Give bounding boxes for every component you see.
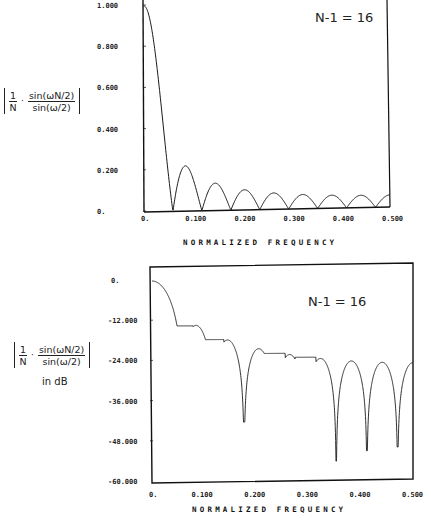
y-tick-label: 0.800 bbox=[97, 43, 118, 51]
y-tick-label: -36.000 bbox=[108, 398, 138, 406]
x-tick-label: 0.200 bbox=[244, 491, 265, 499]
x-tick-label: 0.300 bbox=[297, 491, 318, 499]
linear-magnitude-chart: 1 N · sin(ωN/2) sin(ω/2) 1.0000.8000.600… bbox=[0, 0, 431, 250]
x-tick-label: 0.400 bbox=[349, 491, 370, 499]
top-plot-svg: 1.0000.8000.6000.4000.2000. 0.0.1000.200… bbox=[0, 0, 431, 250]
x-axis-title: NORMALIZED FREQUENCY bbox=[183, 238, 337, 247]
y-tick-label: -12.000 bbox=[108, 317, 138, 325]
y-tick-label: 0.400 bbox=[97, 126, 118, 134]
bottom-plot-svg: 0.-12.000-24.000-36.000-48.000-60.000 0.… bbox=[0, 250, 431, 521]
plot-axes bbox=[150, 263, 413, 483]
y-tick-label: -48.000 bbox=[108, 438, 138, 446]
y-tick-label: -24.000 bbox=[108, 357, 138, 365]
x-tick-label: 0.400 bbox=[333, 215, 354, 223]
x-tick-label: 0. bbox=[149, 491, 157, 499]
y-tick-labels: 1.0000.8000.6000.4000.2000. bbox=[97, 2, 146, 216]
db-magnitude-chart: 1 N · sin(ωN/2) sin(ω/2) in dB 0.-12.000… bbox=[0, 250, 431, 521]
x-tick-label: 0.500 bbox=[382, 215, 403, 223]
magnitude-curve bbox=[144, 6, 390, 211]
y-tick-label: 0.200 bbox=[97, 167, 118, 175]
y-tick-label: 0. bbox=[111, 277, 119, 285]
x-tick-label: 0.200 bbox=[234, 215, 255, 223]
plot-frame bbox=[150, 263, 413, 483]
y-tick-label: 0. bbox=[97, 208, 105, 216]
db-magnitude-curve bbox=[152, 281, 413, 461]
x-tick-label: 0.100 bbox=[192, 491, 213, 499]
right-border-line bbox=[387, 0, 390, 207]
x-tick-label: 0.500 bbox=[402, 491, 423, 499]
n-annotation: N-1 = 16 bbox=[315, 10, 373, 25]
x-axis-line bbox=[144, 207, 390, 212]
plot-axes bbox=[143, 0, 390, 212]
y-tick-label: 1.000 bbox=[97, 2, 118, 10]
x-tick-label: 0. bbox=[141, 215, 149, 223]
y-tick-label: 0.600 bbox=[97, 84, 118, 92]
y-tick-label: -60.000 bbox=[108, 478, 138, 486]
y-axis-line bbox=[143, 0, 144, 212]
x-axis-title: NORMALIZED FREQUENCY bbox=[192, 505, 346, 514]
x-tick-label: 0.300 bbox=[284, 215, 305, 223]
n-annotation: N-1 = 16 bbox=[308, 294, 366, 309]
x-tick-label: 0.100 bbox=[185, 215, 206, 223]
x-tick-labels: 0.0.1000.2000.3000.4000.500 bbox=[149, 491, 423, 499]
x-tick-labels: 0.0.1000.2000.3000.4000.500 bbox=[141, 215, 403, 223]
y-tick-labels: 0.-12.000-24.000-36.000-48.000-60.000 bbox=[108, 277, 153, 486]
